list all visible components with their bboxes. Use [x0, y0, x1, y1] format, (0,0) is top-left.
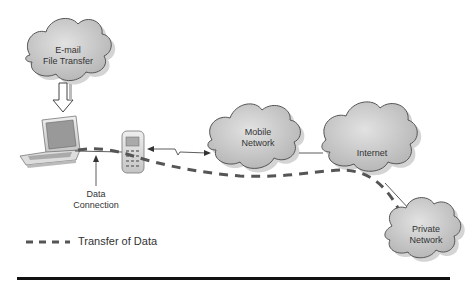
label-line: File Transfer	[30, 56, 106, 67]
mobile-phone-icon	[122, 131, 144, 173]
label-line: Network	[398, 235, 454, 246]
label-line: Connection	[66, 200, 126, 211]
label-line: Private	[398, 224, 454, 235]
pointer-arrow-icon	[93, 155, 99, 162]
label-line: Mobile	[220, 127, 296, 138]
email-cloud-label: E-mail File Transfer	[30, 45, 106, 67]
data-connection-label: Data Connection	[66, 189, 126, 211]
label-line: Network	[220, 138, 296, 149]
wireless-link	[147, 146, 211, 156]
private-network-label: Private Network	[398, 224, 454, 246]
label-line: Data	[66, 189, 126, 200]
label-line: E-mail	[30, 45, 106, 56]
bottom-rule	[17, 277, 450, 280]
internet-label: Internet	[334, 148, 410, 159]
internet-cloud	[322, 102, 421, 175]
network-diagram: E-mail File Transfer Mobile Network Inte…	[0, 0, 468, 285]
mobile-network-label: Mobile Network	[220, 127, 296, 149]
laptop-icon	[20, 116, 80, 168]
legend-label: Transfer of Data	[78, 235, 157, 247]
download-arrow-icon	[53, 83, 73, 112]
